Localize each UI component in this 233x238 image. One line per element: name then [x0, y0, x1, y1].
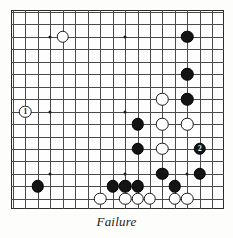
grid-line-horizontal: [11, 49, 224, 50]
stone-move-number: 2: [198, 145, 202, 153]
stone-black[interactable]: [131, 143, 144, 156]
grid-line-horizontal: [11, 137, 224, 138]
stone-black[interactable]: [181, 68, 194, 81]
stone-white[interactable]: [57, 31, 70, 44]
stone-white[interactable]: [169, 193, 182, 206]
stone-white-move-1[interactable]: 1: [19, 105, 32, 118]
grid-line-horizontal: [11, 174, 224, 175]
stone-black[interactable]: [156, 168, 169, 181]
stone-black[interactable]: [194, 168, 207, 181]
stone-black[interactable]: [32, 180, 45, 193]
grid-line-horizontal: [11, 12, 224, 13]
grid-line-horizontal: [11, 24, 224, 25]
stone-white[interactable]: [156, 93, 169, 106]
grid-line-horizontal: [11, 149, 224, 150]
grid-line-horizontal: [11, 161, 224, 162]
grid-line-vertical: [100, 10, 101, 209]
grid-line-vertical: [150, 10, 151, 209]
stone-black[interactable]: [169, 180, 182, 193]
star-point: [49, 172, 52, 175]
stone-white[interactable]: [156, 143, 169, 156]
stone-black[interactable]: [106, 180, 119, 193]
stone-white[interactable]: [94, 193, 107, 206]
figure-container: 12 Failure: [0, 0, 233, 238]
star-point: [49, 35, 52, 38]
stone-white[interactable]: [181, 118, 194, 131]
grid-line-vertical: [88, 10, 89, 209]
stone-black[interactable]: [119, 180, 132, 193]
grid-line-horizontal: [11, 112, 224, 113]
stone-move-number: 1: [24, 108, 28, 116]
star-point: [49, 110, 52, 113]
grid-line-vertical: [212, 10, 213, 209]
figure-caption: Failure: [0, 214, 233, 230]
star-point: [124, 172, 127, 175]
stone-white[interactable]: [181, 193, 194, 206]
grid-line-vertical: [13, 10, 14, 209]
grid-line-horizontal: [11, 62, 224, 63]
star-point: [124, 35, 127, 38]
star-point: [124, 110, 127, 113]
stone-white[interactable]: [119, 193, 132, 206]
stone-black[interactable]: [131, 118, 144, 131]
stone-white[interactable]: [144, 193, 157, 206]
stone-black[interactable]: [181, 93, 194, 106]
stone-white[interactable]: [156, 118, 169, 131]
stone-black[interactable]: [181, 31, 194, 44]
grid-line-horizontal: [11, 87, 224, 88]
stone-white[interactable]: [131, 193, 144, 206]
stone-black[interactable]: [131, 180, 144, 193]
go-board[interactable]: 12: [11, 10, 224, 209]
star-point: [186, 172, 189, 175]
grid-line-vertical: [75, 10, 76, 209]
stone-black-move-2[interactable]: 2: [194, 143, 207, 156]
